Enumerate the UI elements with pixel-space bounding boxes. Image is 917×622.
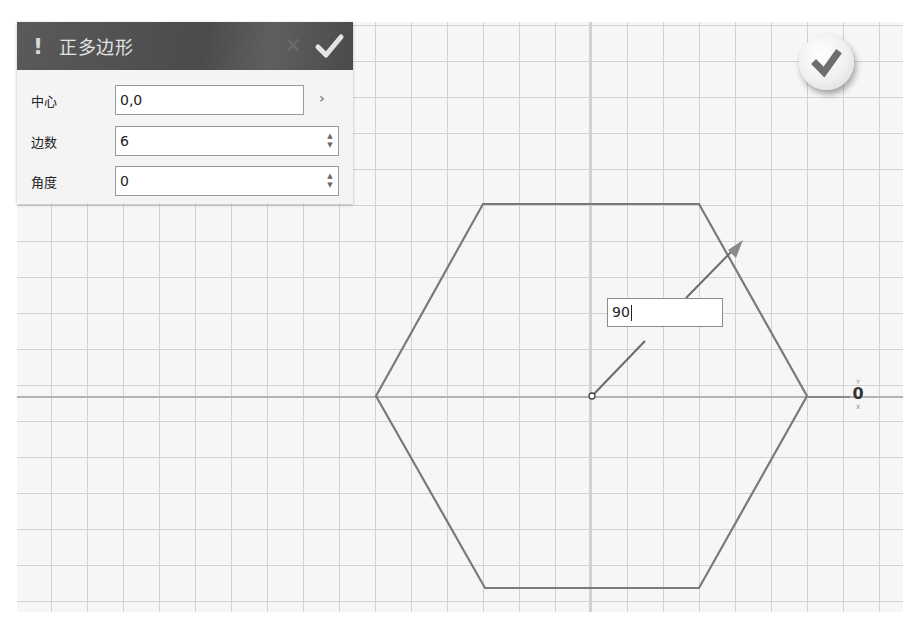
panel-header: ! 正多边形 ✕ [17, 22, 353, 70]
text-caret [631, 305, 632, 321]
regular-polygon-panel: ! 正多边形 ✕ 中心 0,0 › 边数 6 ▲ ▼ 角度 0 ▲ ▼ [17, 22, 353, 204]
panel-title: 正多边形 [59, 33, 133, 59]
dynamic-value-text: 90 [612, 304, 630, 320]
angle-value: 0 [120, 173, 129, 189]
sides-label: 边数 [31, 132, 57, 151]
center-label: 中心 [31, 91, 57, 110]
spinner-down-icon[interactable]: ▼ [326, 181, 334, 190]
check-icon [799, 35, 854, 90]
angle-input[interactable]: 0 ▲ ▼ [115, 166, 339, 196]
cancel-button[interactable]: ✕ [279, 32, 307, 60]
chevron-right-icon[interactable]: › [319, 90, 325, 106]
angle-label: 角度 [31, 172, 57, 191]
origin-marker: Y 0 X [850, 378, 866, 414]
center-input[interactable]: 0,0 [115, 85, 304, 115]
ok-button[interactable] [313, 30, 345, 62]
origin-bottom-label: X [850, 403, 866, 410]
field-row-angle: 角度 0 ▲ ▼ [17, 166, 353, 196]
dynamic-value-input[interactable]: 90 [607, 298, 723, 327]
field-row-sides: 边数 6 ▲ ▼ [17, 126, 353, 156]
check-icon [313, 30, 345, 62]
sides-input[interactable]: 6 ▲ ▼ [115, 126, 339, 156]
angle-spinner[interactable]: ▲ ▼ [326, 172, 334, 190]
sides-spinner[interactable]: ▲ ▼ [326, 132, 334, 150]
confirm-fab-button[interactable] [799, 35, 854, 90]
sides-value: 6 [120, 133, 129, 149]
field-row-center: 中心 0,0 › [17, 85, 353, 115]
spinner-up-icon[interactable]: ▲ [326, 172, 334, 181]
spinner-up-icon[interactable]: ▲ [326, 132, 334, 141]
origin-icon: 0 [850, 385, 866, 403]
spinner-down-icon[interactable]: ▼ [326, 141, 334, 150]
warning-icon: ! [33, 34, 47, 59]
